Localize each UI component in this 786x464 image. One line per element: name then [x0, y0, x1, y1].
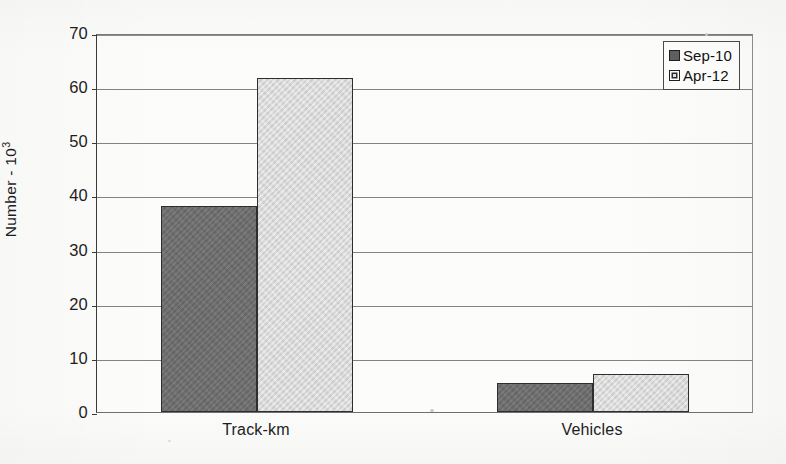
y-axis-tick-label: 50	[42, 132, 88, 151]
legend-label: Apr-12	[683, 67, 729, 84]
y-axis-tick	[92, 89, 97, 90]
y-axis-tick-label: 20	[42, 295, 88, 314]
bar	[161, 206, 257, 412]
bar	[593, 374, 689, 412]
bar	[257, 78, 353, 412]
y-axis-tick-label: 40	[42, 186, 88, 205]
y-axis-tick	[92, 414, 97, 415]
scan-artifact-speck	[168, 440, 171, 442]
y-axis-tick	[92, 306, 97, 307]
y-axis-tick	[92, 143, 97, 144]
gridline	[97, 197, 752, 198]
legend: Sep-10Apr-12	[663, 41, 740, 90]
legend-swatch-icon	[669, 50, 680, 61]
chart-page: Number - 103 010203040506070 Sep-10Apr-1…	[0, 0, 786, 464]
y-axis-tick	[92, 35, 97, 36]
x-axis-category-label: Track-km	[222, 421, 290, 439]
legend-swatch-icon	[669, 70, 680, 81]
y-axis-tick-label: 0	[42, 403, 88, 422]
y-axis-tick-label: 70	[42, 24, 88, 43]
y-axis-tick-label: 60	[42, 78, 88, 97]
y-axis-tick-label: 30	[42, 241, 88, 260]
scan-artifact-speck	[430, 409, 434, 412]
legend-item: Apr-12	[669, 65, 732, 85]
y-axis-title-base: Number - 10	[2, 148, 19, 237]
y-axis-tick-label: 10	[42, 349, 88, 368]
legend-item: Sep-10	[669, 45, 732, 65]
bar	[497, 383, 593, 412]
gridline	[97, 89, 752, 90]
y-axis-title-exponent: 3	[0, 142, 12, 148]
gridline	[97, 143, 752, 144]
gridline	[97, 35, 752, 36]
legend-label: Sep-10	[683, 47, 732, 64]
plot-area: Sep-10Apr-12	[96, 34, 753, 413]
y-axis-tick	[92, 197, 97, 198]
y-axis-tick	[92, 252, 97, 253]
y-axis-tick	[92, 360, 97, 361]
y-axis-title: Number - 103	[0, 0, 24, 379]
x-axis-category-label: Vehicles	[561, 421, 622, 439]
scan-artifact-speck	[705, 33, 708, 36]
